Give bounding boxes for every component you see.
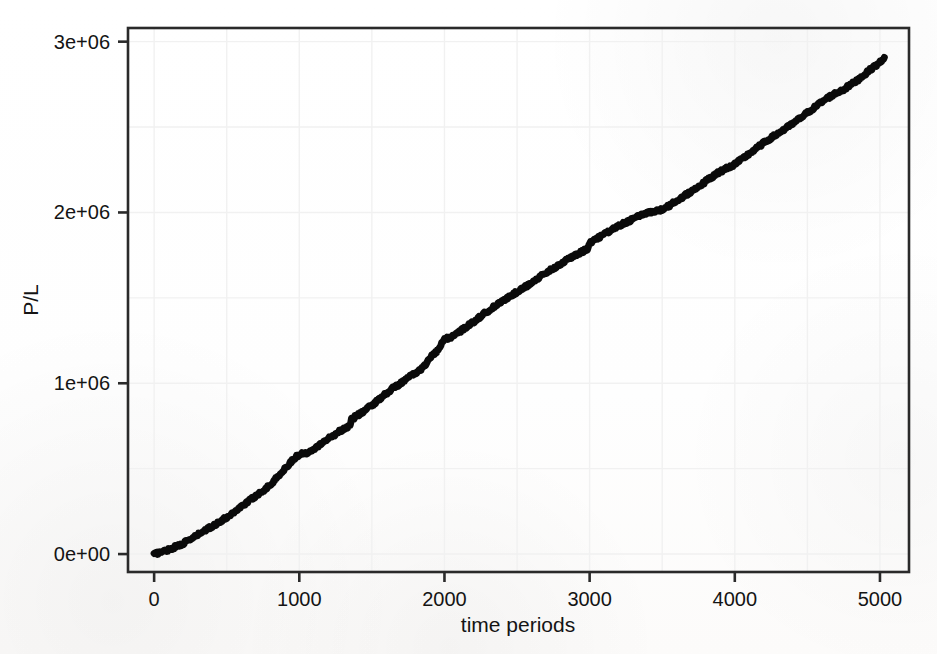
x-tick-label: 5000 xyxy=(858,588,903,610)
gridlines xyxy=(128,28,909,572)
x-axis-tick-labels: 010002000300040005000 xyxy=(149,588,903,610)
y-axis-ticks xyxy=(118,42,128,554)
data-series-line xyxy=(154,57,884,554)
y-axis-tick-labels: 0e+001e+062e+063e+06 xyxy=(54,31,110,565)
plot-frame xyxy=(128,28,909,572)
chart-figure: 010002000300040005000 0e+001e+062e+063e+… xyxy=(0,0,937,654)
x-tick-label: 2000 xyxy=(422,588,467,610)
x-tick-label: 4000 xyxy=(713,588,758,610)
x-axis-title: time periods xyxy=(461,613,575,636)
x-tick-label: 1000 xyxy=(277,588,322,610)
y-tick-label: 1e+06 xyxy=(54,372,110,394)
series-path xyxy=(154,57,884,554)
y-tick-label: 0e+00 xyxy=(54,543,110,565)
x-tick-label: 3000 xyxy=(567,588,612,610)
y-axis-title: P/L xyxy=(19,284,42,316)
plot-canvas: 010002000300040005000 0e+001e+062e+063e+… xyxy=(0,0,937,654)
x-tick-label: 0 xyxy=(149,588,160,610)
y-tick-label: 2e+06 xyxy=(54,201,110,223)
x-axis-ticks xyxy=(154,572,880,582)
y-tick-label: 3e+06 xyxy=(54,31,110,53)
